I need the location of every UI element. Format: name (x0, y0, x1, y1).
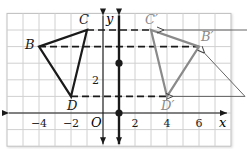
x-tick-label: 4 (164, 117, 171, 130)
vertex-label-d-prime: D′ (160, 98, 174, 113)
vertex-label-c: C (79, 12, 89, 27)
origin-label: O (91, 115, 102, 130)
reflection-line-point (115, 109, 122, 116)
vertex-label-b: B (24, 37, 35, 52)
reflection-diagram: BCDB′C′D′yxO−4−22462 (0, 0, 247, 149)
x-axis-label: x (219, 115, 227, 130)
y-tick-label: 2 (92, 74, 99, 87)
vertex-label-b-prime: B′ (200, 29, 214, 44)
reflection-line-point (115, 60, 122, 67)
x-tick-label: −4 (31, 117, 47, 130)
vertex-label-c-prime: C′ (145, 12, 158, 27)
x-tick-label: 2 (132, 117, 139, 130)
y-axis-label: y (105, 11, 114, 26)
x-tick-label: 6 (196, 117, 203, 130)
x-tick-label: −2 (63, 117, 79, 130)
coordinate-plane: BCDB′C′D′yxO−4−22462 (0, 0, 247, 149)
vertex-label-d: D (66, 98, 78, 113)
